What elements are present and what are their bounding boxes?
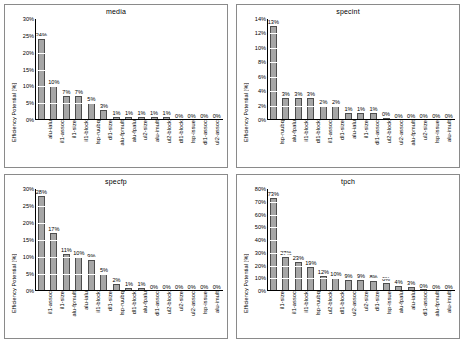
x-tick-label: dl1-size (104, 291, 116, 335)
y-tick-label: 10% (255, 45, 266, 51)
y-tick-label: 25% (23, 203, 34, 209)
chart-frame: tpch Efficiency Potential [%] 0%10%20%30… (236, 174, 460, 339)
x-tick-label: alu-ialu (80, 291, 92, 335)
x-tick-label: il1-block (300, 291, 312, 335)
x-tick-label: ul2-block (324, 291, 336, 335)
x-tick-label: ul2-size (419, 120, 431, 164)
y-tick-label: 25% (23, 33, 34, 39)
bar-value-label: 10% (330, 271, 341, 277)
y-tick-label: 8% (258, 59, 266, 65)
y-tick-label: 0% (26, 288, 34, 294)
bar (38, 196, 45, 291)
bar (320, 106, 327, 120)
x-tick-label: alu-ialu (44, 120, 56, 164)
chart-panel-specfp: specfp Efficiency Potential [%] 0%5%10%1… (0, 170, 232, 341)
x-tick-label: dl1-block (128, 291, 140, 335)
gridline (35, 240, 223, 241)
gridline (35, 257, 223, 258)
bar-value-label: 1% (112, 110, 120, 116)
gridline (267, 77, 455, 78)
y-axis-line (267, 19, 268, 120)
x-tick-label: dl1-block (175, 120, 187, 164)
x-tick-label: ul2-size (140, 120, 152, 164)
x-axis-labels: alu-ialuil1-associl1-sizeil1-blocklsp-ru… (44, 120, 223, 164)
gridline (267, 48, 455, 49)
bar (282, 98, 289, 120)
x-tick-label: alu-imult (443, 120, 455, 164)
x-tick-label: alu-ialu (407, 291, 419, 335)
bar (270, 198, 277, 291)
bar (63, 96, 70, 120)
x-tick-label: il1-assoc (56, 120, 68, 164)
gridline (35, 36, 223, 37)
y-tick-label: 0% (258, 117, 266, 123)
y-axis-ticks: 0%5%10%15%20%25%30% (18, 189, 35, 291)
y-tick-label: 10% (23, 254, 34, 260)
gridline (267, 202, 455, 203)
gridline (267, 215, 455, 216)
x-tick-label: dl1-block (312, 120, 324, 164)
gridline (35, 70, 223, 71)
chart-frame: specfp Efficiency Potential [%] 0%5%10%1… (4, 174, 228, 339)
plot-area: 28%17%11%10%9%5%2%1%1%0%0%0%0%0%0% (35, 189, 223, 291)
x-tick-label: il1-block (300, 120, 312, 164)
x-tick-label: il1-size (360, 120, 372, 164)
y-tick-label: 60% (255, 212, 266, 218)
gridline (267, 227, 455, 228)
bar (50, 233, 57, 291)
x-tick-label: ul2-block (383, 120, 395, 164)
y-tick-label: 14% (255, 16, 266, 22)
gridline (267, 266, 455, 267)
bar-value-label: 6% (382, 276, 390, 282)
bar-value-label: 10% (73, 250, 84, 256)
gridline (267, 189, 455, 190)
x-tick-label: lsp-ruubq (312, 291, 324, 335)
x-tick-label: dl1-assoc (151, 291, 163, 335)
gridline (35, 103, 223, 104)
chart-panel-specint: specint Efficiency Potential [%] 0%2%4%6… (232, 0, 464, 170)
y-tick-label: 80% (255, 186, 266, 192)
bar-value-label: 2% (112, 277, 120, 283)
y-tick-label: 15% (23, 237, 34, 243)
x-tick-label: alu-fpalu (395, 291, 407, 335)
bar-value-label: 7% (62, 89, 70, 95)
gridline (267, 62, 455, 63)
y-tick-label: 10% (23, 83, 34, 89)
x-tick-label: lsp-ruubq (276, 120, 288, 164)
y-tick-label: 20% (23, 50, 34, 56)
bar-value-label: 1% (344, 106, 352, 112)
x-tick-label: dl1-assoc (419, 291, 431, 335)
y-axis-label: Efficiency Potential [%] (241, 189, 250, 335)
x-tick-label: lsp-ruubq (116, 291, 128, 335)
y-tick-label: 10% (255, 275, 266, 281)
gridline (267, 19, 455, 20)
bar-value-label: 3% (294, 91, 302, 97)
x-tick-label: ul2-assoc (348, 291, 360, 335)
x-tick-label: alu-imult (211, 291, 223, 335)
bar-value-label: 17% (48, 226, 59, 232)
x-tick-label: ul2-size (360, 291, 372, 335)
bar-value-label: 1% (357, 106, 365, 112)
y-tick-label: 20% (23, 220, 34, 226)
x-tick-label: alu-fpmult (116, 120, 128, 164)
bar (307, 98, 314, 120)
y-tick-label: 5% (26, 100, 34, 106)
gridline (267, 253, 455, 254)
gridline (267, 91, 455, 92)
bar-value-label: 10% (48, 79, 59, 85)
gridline (267, 278, 455, 279)
bar-value-label: 23% (293, 255, 304, 261)
bar-value-label: 1% (125, 110, 133, 116)
bar-value-label: 1% (163, 110, 171, 116)
chart-title: tpch (237, 178, 459, 185)
bar-value-label: 3% (307, 91, 315, 97)
chart-grid: media Efficiency Potential [%] 0%5%10%15… (0, 0, 464, 341)
gridline (35, 206, 223, 207)
bar-value-label: 2% (332, 99, 340, 105)
y-tick-label: 15% (23, 67, 34, 73)
x-tick-label: dl1-size (372, 291, 384, 335)
x-tick-label: alu-fpmult (68, 291, 80, 335)
x-tick-label: il1-size (276, 291, 288, 335)
bar-value-label: 1% (125, 281, 133, 287)
bar-value-label: 0% (420, 283, 428, 289)
